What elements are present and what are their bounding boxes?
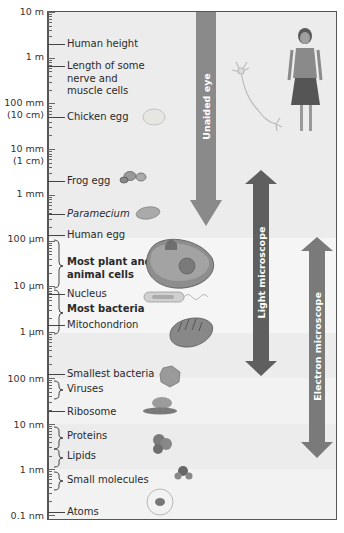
illustrations	[0, 0, 344, 533]
light-microscope-label: Light microscope	[256, 223, 267, 323]
electron-microscope-label: Electron microscope	[312, 292, 323, 402]
virus-image	[160, 366, 180, 387]
neuron-image	[232, 62, 282, 131]
human-image	[289, 28, 321, 131]
chicken-egg-image	[143, 109, 165, 125]
atom-image	[147, 489, 173, 515]
mitochondrion-image	[170, 318, 213, 347]
small-molecule-image	[175, 466, 193, 480]
protein-image	[153, 434, 172, 454]
paramecium-image	[135, 205, 160, 220]
unaided-eye-label: Unaided eye	[201, 67, 212, 147]
bacterium-image	[144, 292, 208, 302]
animal-cell-image	[146, 239, 213, 288]
ribosome-image	[143, 397, 177, 415]
frog-egg-image	[120, 172, 146, 184]
